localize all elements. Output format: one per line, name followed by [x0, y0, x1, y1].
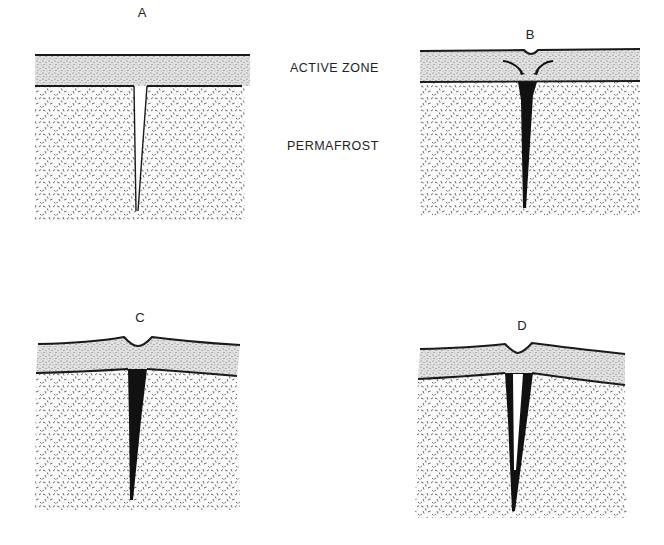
panel-label-d: D — [517, 318, 526, 333]
panel-label-b: B — [526, 27, 535, 42]
permafrost-table-line — [420, 81, 640, 82]
panel-b — [420, 49, 640, 215]
ice-wedge-diagram — [0, 0, 664, 545]
panel-d — [415, 343, 627, 518]
legend-permafrost: PERMAFROST — [287, 139, 379, 153]
panel-label-c: C — [135, 310, 144, 325]
panel-c — [35, 337, 240, 510]
panel-a — [35, 55, 250, 220]
legend-active-zone: ACTIVE ZONE — [290, 61, 379, 75]
active-zone-layer — [35, 55, 250, 86]
panel-label-a: A — [138, 5, 147, 20]
